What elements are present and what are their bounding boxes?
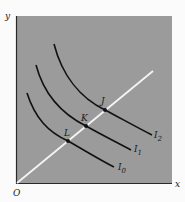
indifference-curve-diagram: J K L I2 I1 I0 y x O bbox=[0, 0, 185, 202]
y-axis-label: y bbox=[4, 11, 11, 21]
point-l bbox=[66, 139, 70, 143]
point-j bbox=[103, 108, 107, 112]
point-k bbox=[84, 124, 88, 128]
point-label-l: L bbox=[63, 128, 70, 138]
point-label-k: K bbox=[80, 113, 89, 123]
diagram-canvas: J K L I2 I1 I0 y x O bbox=[0, 0, 185, 202]
x-axis-label: x bbox=[175, 179, 180, 189]
plot-panel bbox=[16, 16, 172, 184]
origin-label: O bbox=[13, 188, 21, 198]
